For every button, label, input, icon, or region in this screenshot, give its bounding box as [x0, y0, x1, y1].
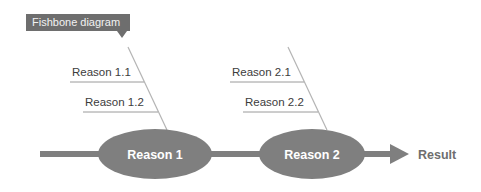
bone-diagonal-group-2 [288, 47, 327, 130]
bone-label-reason-1-1: Reason 1.1 [72, 66, 131, 78]
bone-label-reason-2-1: Reason 2.1 [232, 66, 291, 78]
bone-label-reason-2-2: Reason 2.2 [245, 96, 304, 108]
fishbone-diagram-svg: Reason 1.1 Reason 1.2 Reason 2.1 Reason … [0, 0, 481, 192]
result-label: Result [418, 148, 457, 162]
node-label-reason-1: Reason 1 [127, 148, 183, 162]
title-badge-pointer-icon [117, 31, 127, 38]
bone-diagonal-group-1 [128, 47, 167, 130]
fishbone-diagram-canvas: Reason 1.1 Reason 1.2 Reason 2.1 Reason … [0, 0, 481, 192]
title-badge-label: Fishbone diagram [32, 16, 120, 28]
spine-arrowhead-icon [390, 144, 409, 164]
bone-label-reason-1-2: Reason 1.2 [85, 96, 144, 108]
node-label-reason-2: Reason 2 [284, 148, 340, 162]
